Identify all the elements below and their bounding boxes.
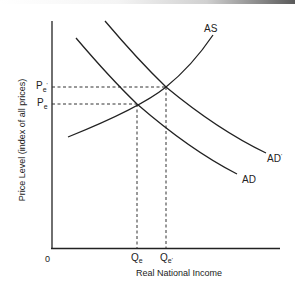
x-axis-title: Real National Income [136, 268, 222, 278]
origin-label: 0 [45, 254, 50, 264]
ad-curve [76, 38, 237, 174]
qe-label: Qe [131, 252, 143, 264]
ad-prime-label: AD' [267, 153, 282, 164]
pe-label: Pe [37, 97, 48, 110]
qe-prime-label: Qe' [160, 252, 173, 264]
y-axis-title: Price Level (index of all prices) [17, 79, 27, 202]
pe-prime-label: Pe' [36, 80, 48, 93]
ad-as-diagram: AS AD AD' Pe' Pe 0 Qe Qe' Real National … [0, 0, 295, 288]
as-curve [68, 35, 213, 137]
as-label: AS [204, 23, 218, 34]
ad-label: AD [242, 174, 256, 185]
